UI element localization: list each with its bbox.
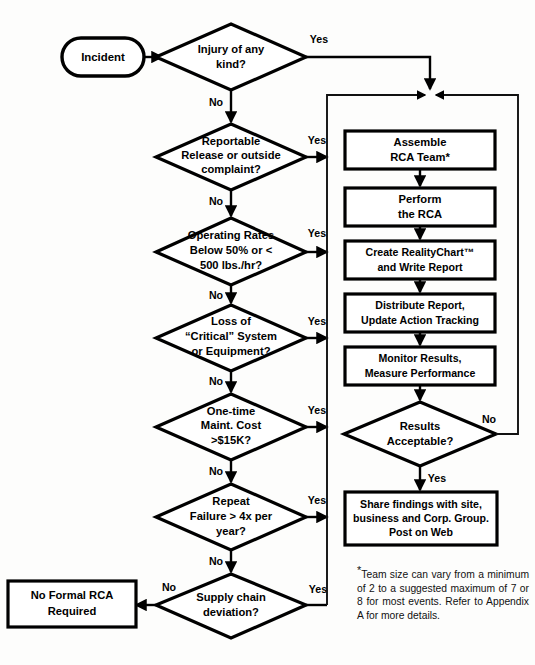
decision-reportable-line3: complaint? <box>201 163 261 175</box>
edge-label-reportable-no: No <box>209 195 224 207</box>
flowchart-svg: Incident Injury of any kind? Yes No Repo… <box>0 0 535 665</box>
decision-critical-system-line2: “Critical” System <box>185 330 277 342</box>
process-box-perform-line1: Perform <box>399 193 442 205</box>
decision-results-acceptable[interactable]: Results Acceptable? <box>344 402 496 466</box>
edge-label-results-yes: Yes <box>428 472 446 484</box>
decision-repeat-failure-line3: year? <box>216 525 246 537</box>
process-box-share-line2: business and Corp. Group. <box>353 512 489 524</box>
end-box-line2: Required <box>48 605 97 617</box>
decision-operating-rates-line3: 500 lbs./hr? <box>200 259 262 271</box>
decision-reportable-line2: Release or outside <box>181 149 280 161</box>
edge-label-repeat-failure-yes: Yes <box>308 494 326 506</box>
process-box-share-findings[interactable]: Share findings with site, business and C… <box>345 492 497 545</box>
decision-critical-system[interactable]: Loss of “Critical” System or Equipment? <box>156 305 306 371</box>
process-box-distribute[interactable]: Distribute Report, Update Action Trackin… <box>345 294 495 332</box>
process-box-monitor[interactable]: Monitor Results, Measure Performance <box>345 347 495 385</box>
decision-critical-system-line1: Loss of <box>211 315 251 327</box>
footnote-text: Team size can vary from a minimum of 2 t… <box>357 569 529 621</box>
process-box-share-line3: Post on Web <box>389 526 453 538</box>
connector-injury-yes <box>306 57 430 89</box>
process-box-realitychart-line2: and Write Report <box>377 261 463 273</box>
process-box-monitor-line2: Measure Performance <box>365 367 476 379</box>
edge-label-maint-cost-no: No <box>209 465 224 477</box>
footnote-team-size: *Team size can vary from a minimum of 2 … <box>357 568 529 622</box>
decision-maint-cost-line3: >$15K? <box>211 434 251 446</box>
start-terminal-incident[interactable]: Incident <box>62 38 144 76</box>
decision-maint-cost-line2: Maint. Cost <box>201 419 262 431</box>
process-box-realitychart[interactable]: Create RealityChart™ and Write Report <box>345 241 495 279</box>
edge-label-operating-rates-no: No <box>209 289 224 301</box>
edge-label-supply-chain-yes: Yes <box>309 583 327 595</box>
edge-label-injury-yes: Yes <box>310 33 328 45</box>
process-box-distribute-line1: Distribute Report, <box>375 299 465 311</box>
decision-supply-chain-line1: Supply chain <box>196 591 266 603</box>
flowchart-canvas: Incident Injury of any kind? Yes No Repo… <box>0 0 535 665</box>
edge-label-operating-rates-yes: Yes <box>308 227 326 239</box>
edge-label-repeat-failure-no: No <box>209 555 224 567</box>
decision-operating-rates-line1: Operating Rates <box>188 229 274 241</box>
process-box-assemble-line1: Assemble <box>394 136 447 148</box>
edge-label-results-no: No <box>482 413 497 425</box>
decision-supply-chain-line2: deviation? <box>203 606 259 618</box>
process-box-realitychart-line1: Create RealityChart™ <box>366 246 475 258</box>
decision-repeat-failure[interactable]: Repeat Failure > 4x per year? <box>156 484 306 550</box>
decision-injury-line1: Injury of any <box>198 43 265 55</box>
decision-results-line1: Results <box>400 420 440 432</box>
process-box-assemble[interactable]: Assemble RCA Team* <box>345 131 495 169</box>
decision-supply-chain[interactable]: Supply chain deviation? <box>156 574 306 638</box>
decision-reportable-line1: Reportable <box>202 135 260 147</box>
edge-label-injury-no: No <box>209 96 224 108</box>
edge-label-supply-chain-no: No <box>162 581 177 593</box>
end-box-no-formal-rca[interactable]: No Formal RCA Required <box>8 581 136 627</box>
decision-critical-system-line3: or Equipment? <box>192 345 271 357</box>
edge-label-reportable-yes: Yes <box>308 134 326 146</box>
end-box-line1: No Formal RCA <box>31 589 114 601</box>
process-box-perform[interactable]: Perform the RCA <box>345 188 495 226</box>
decision-injury[interactable]: Injury of any kind? <box>156 24 306 90</box>
decision-operating-rates-line2: Below 50% or < <box>190 244 273 256</box>
decision-repeat-failure-line2: Failure > 4x per <box>190 510 273 522</box>
decision-maint-cost-line1: One-time <box>207 405 256 417</box>
decision-injury-line2: kind? <box>216 58 246 70</box>
decision-repeat-failure-line1: Repeat <box>212 495 250 507</box>
edge-label-maint-cost-yes: Yes <box>308 404 326 416</box>
process-box-assemble-line2: RCA Team* <box>390 151 450 163</box>
decision-operating-rates[interactable]: Operating Rates Below 50% or < 500 lbs./… <box>156 218 306 285</box>
process-box-perform-line2: the RCA <box>398 208 442 220</box>
decision-results-line2: Acceptable? <box>387 435 454 447</box>
edge-label-critical-system-yes: Yes <box>308 315 326 327</box>
decision-maint-cost[interactable]: One-time Maint. Cost >$15K? <box>156 394 306 460</box>
process-box-share-line1: Share findings with site, <box>360 498 482 510</box>
process-box-distribute-line2: Update Action Tracking <box>361 314 479 326</box>
decision-reportable[interactable]: Reportable Release or outside complaint? <box>156 124 306 190</box>
incident-label: Incident <box>81 51 125 63</box>
edge-label-critical-system-no: No <box>209 375 224 387</box>
process-box-monitor-line1: Monitor Results, <box>379 352 462 364</box>
